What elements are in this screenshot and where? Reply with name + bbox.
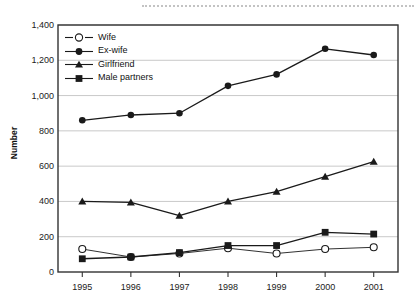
data-point-filled-square — [79, 255, 86, 262]
data-point-filled-circle — [176, 110, 183, 117]
legend-key-filled-circle-icon — [64, 44, 94, 57]
legend-item-male-partners: Male partners — [64, 71, 184, 85]
data-point-filled-circle — [79, 117, 86, 124]
data-point-open-circle — [322, 246, 329, 253]
series-line — [82, 162, 373, 216]
legend-item-ex-wife: Ex-wife — [64, 44, 184, 58]
series-girlfriend — [78, 158, 377, 219]
data-point-filled-triangle — [370, 158, 378, 165]
legend-label-wife: Wife — [94, 32, 116, 42]
line-chart-figure: Number 02004006008001,0001,2001,400 1995… — [0, 0, 418, 305]
data-point-filled-square — [322, 229, 329, 236]
data-point-filled-square — [273, 242, 280, 249]
data-point-filled-square — [370, 231, 377, 238]
data-point-open-circle — [79, 246, 86, 253]
legend-label-male-partners: Male partners — [94, 72, 153, 82]
legend-item-wife: Wife — [64, 30, 184, 44]
data-point-filled-square — [127, 254, 134, 261]
data-point-filled-circle — [273, 71, 280, 78]
legend-item-girlfriend: Girlfriend — [64, 57, 184, 71]
legend-key-filled-square-icon — [64, 71, 94, 84]
chart-legend: Wife Ex-wife Girlfriend — [64, 30, 184, 84]
legend-key-open-circle-icon — [64, 30, 94, 43]
data-point-filled-circle — [322, 46, 329, 53]
data-point-filled-circle — [225, 83, 232, 90]
data-point-filled-square — [225, 242, 232, 249]
data-point-filled-circle — [128, 112, 135, 119]
plot-area — [0, 0, 418, 305]
data-point-open-circle — [370, 244, 377, 251]
data-point-filled-circle — [370, 52, 377, 59]
data-point-filled-square — [176, 249, 183, 256]
legend-label-girlfriend: Girlfriend — [94, 59, 135, 69]
legend-key-filled-triangle-icon — [64, 57, 94, 70]
legend-label-ex-wife: Ex-wife — [94, 45, 128, 55]
data-point-open-circle — [273, 250, 280, 257]
series-male-partners — [79, 229, 377, 262]
